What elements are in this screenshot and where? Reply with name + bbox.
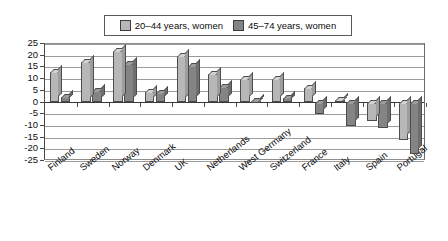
gridline (45, 56, 424, 57)
bar-denmark-series-1 (145, 92, 155, 103)
bar-denmark-series-2 (156, 93, 166, 102)
bar-side-face (101, 84, 105, 98)
y-tick-label: 20 (0, 50, 38, 59)
x-tick-mark (172, 103, 173, 107)
bar-west-germany-series-1 (240, 79, 250, 102)
bar-italy-series-1 (335, 100, 345, 102)
y-tick-label: -25 (0, 155, 38, 164)
bar-portugal-series-2 (410, 103, 420, 154)
gridline (45, 44, 424, 45)
y-tick-label: -15 (0, 132, 38, 141)
bar-side-face (323, 96, 327, 110)
x-tick-mark (204, 103, 205, 107)
bar-side-face (164, 86, 168, 97)
bar-side-face (196, 59, 200, 97)
gridline (45, 126, 424, 127)
bar-side-face (58, 65, 62, 97)
bar-italy-series-2 (346, 103, 356, 126)
bar-side-face (185, 49, 189, 98)
y-tick-label: 15 (0, 61, 38, 70)
bar-france-series-1 (304, 88, 314, 102)
bar-switzerland-series-2 (283, 98, 293, 103)
bar-side-face (249, 72, 253, 97)
bar-side-face (418, 96, 422, 149)
y-tick-label: 0 (0, 97, 38, 106)
bar-side-face (280, 72, 284, 97)
bar-uk-series-1 (177, 56, 187, 103)
bar-side-face (133, 57, 137, 98)
bar-west-germany-series-2 (251, 101, 261, 103)
bar-side-face (355, 96, 359, 121)
bar-spain-series-1 (367, 103, 377, 122)
bar-side-face (90, 55, 94, 98)
bar-norway-series-1 (113, 51, 123, 102)
bar-finland-series-1 (50, 72, 60, 102)
x-tick-mark (236, 103, 237, 107)
x-tick-mark (299, 103, 300, 107)
y-tick-label: -5 (0, 108, 38, 117)
bar-chart: 20–44 years, women 45–74 years, women 25… (0, 0, 448, 241)
bar-side-face (376, 96, 380, 117)
x-tick-mark (267, 103, 268, 107)
bar-netherlands-series-1 (208, 74, 218, 102)
y-tick-label: 10 (0, 73, 38, 82)
x-tick-mark (363, 103, 364, 107)
y-tick-label: 25 (0, 38, 38, 47)
bar-side-face (228, 80, 232, 97)
bar-france-series-2 (315, 103, 325, 115)
bar-portugal-series-1 (399, 103, 409, 140)
bar-side-face (122, 44, 126, 97)
y-tick-label: -20 (0, 143, 38, 152)
gridline (45, 138, 424, 139)
bar-switzerland-series-1 (272, 79, 282, 102)
bar-side-face (387, 96, 391, 124)
y-tick-mark (40, 160, 44, 161)
bar-uk-series-2 (188, 66, 198, 102)
y-tick-label: 5 (0, 85, 38, 94)
x-tick-mark (331, 103, 332, 107)
x-tick-mark (77, 103, 78, 107)
gridline (45, 79, 424, 80)
y-tick-label: -10 (0, 120, 38, 129)
bar-side-face (312, 81, 316, 97)
bar-sweden-series-1 (81, 62, 91, 103)
bar-finland-series-2 (61, 97, 71, 103)
x-tick-mark (140, 103, 141, 107)
x-tick-mark (394, 103, 395, 107)
x-tick-mark (109, 103, 110, 107)
x-tick-mark (426, 103, 427, 107)
gridline (45, 67, 424, 68)
bar-side-face (407, 96, 411, 135)
plot-wrap: 2520151050-5-10-15-20-25 FinlandSwedenNo… (0, 0, 448, 241)
bar-side-face (217, 67, 221, 97)
